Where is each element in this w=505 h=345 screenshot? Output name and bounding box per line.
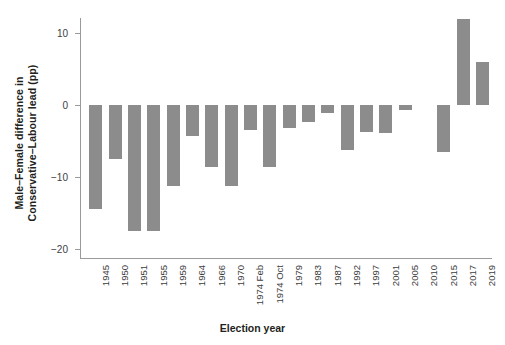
bar [186,105,199,136]
bar [109,105,122,159]
bar [147,105,160,231]
bar [167,105,180,186]
y-axis-title-line1: Male–Female difference in [13,76,25,209]
y-axis-title: Male–Female difference in Conservative–L… [0,0,52,285]
bar [205,105,218,167]
y-tick-mark [75,105,80,106]
bar [244,105,257,130]
bar [263,105,276,167]
bar [457,19,470,105]
y-axis-line [80,18,81,258]
y-axis-title-line2: Conservative–Labour lead (pp) [26,64,39,221]
y-tick-mark [75,249,80,250]
plot-area [86,18,492,258]
bar [302,105,315,122]
bar [283,105,296,128]
y-tick-label: 0 [28,100,68,111]
bar [321,105,334,113]
bar [476,62,489,105]
x-axis-title: Election year [0,322,505,334]
bar [360,105,373,132]
bar [225,105,238,186]
bar [89,105,102,209]
bar [399,105,412,110]
bar [437,105,450,152]
y-tick-label: 10 [28,28,68,39]
bar [128,105,141,231]
x-axis-line [80,258,492,259]
chart-figure: Male–Female difference in Conservative–L… [0,0,505,345]
y-tick-label: −20 [28,244,68,255]
y-tick-mark [75,33,80,34]
y-tick-mark [75,177,80,178]
y-tick-label: −10 [28,172,68,183]
bar [341,105,354,150]
bar [379,105,392,133]
